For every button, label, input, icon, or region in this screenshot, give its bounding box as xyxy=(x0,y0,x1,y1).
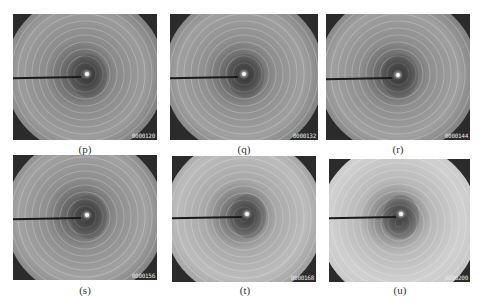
image-panel-s: 0000156 xyxy=(13,155,157,280)
center-spot xyxy=(85,213,89,217)
center-spot xyxy=(399,212,403,216)
image-panel-u: 0000200 xyxy=(329,159,470,282)
center-spot xyxy=(245,212,249,216)
caption-p: (p) xyxy=(65,143,105,155)
caption-u: (u) xyxy=(380,284,420,296)
image-panel-r: 0000144 xyxy=(326,14,470,140)
frame-counter: 0000144 xyxy=(445,132,468,139)
caption-t: (t) xyxy=(225,284,265,296)
frame-counter: 0000200 xyxy=(445,274,468,281)
frame-counter: 0000132 xyxy=(293,132,316,139)
image-panel-p: 0000120 xyxy=(13,14,157,140)
image-panel-t: 0000168 xyxy=(172,156,316,282)
frame-counter: 0000120 xyxy=(132,132,155,139)
frame-counter: 0000168 xyxy=(291,274,314,281)
center-spot xyxy=(85,72,89,76)
frame-counter: 0000156 xyxy=(132,272,155,279)
dark-core xyxy=(382,54,418,98)
caption-r: (r) xyxy=(378,143,418,155)
caption-s: (s) xyxy=(65,284,105,296)
center-spot xyxy=(396,73,400,77)
caption-q: (q) xyxy=(224,143,264,155)
center-spot xyxy=(242,72,246,76)
image-panel-q: 0000132 xyxy=(170,14,318,140)
